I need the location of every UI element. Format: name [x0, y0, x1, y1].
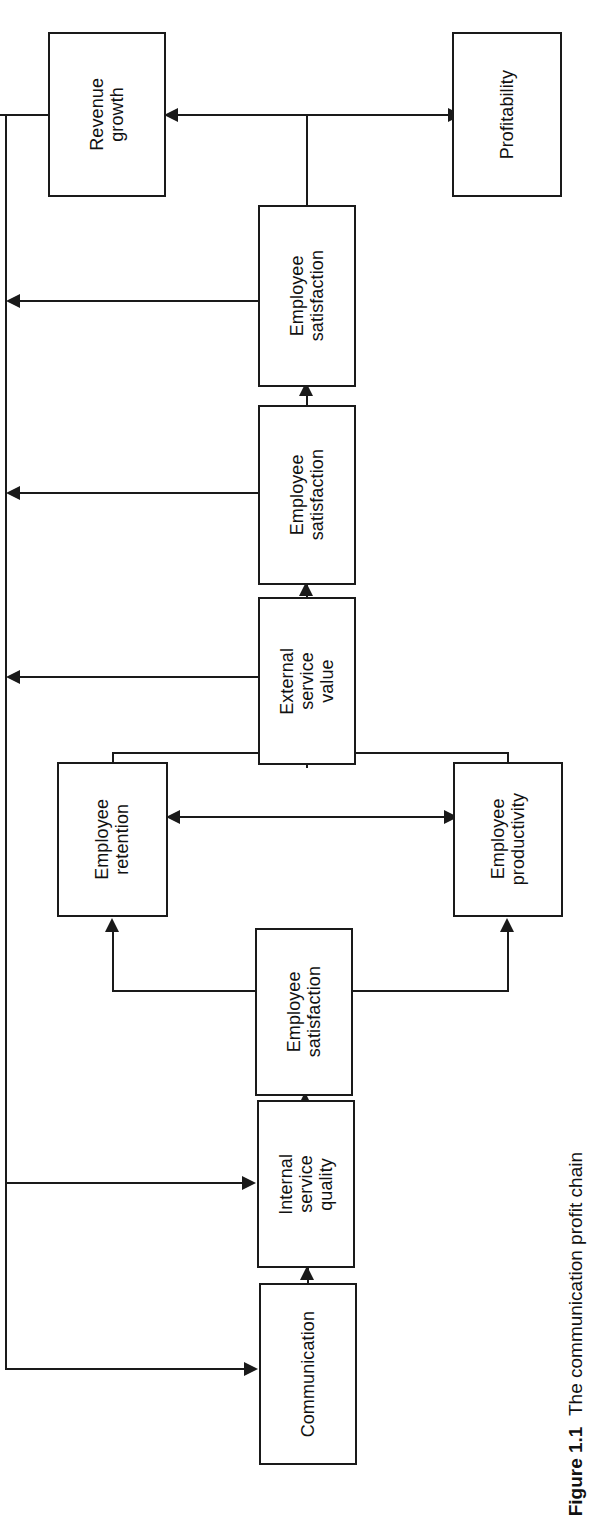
arrowhead-communication-to-internal-quality — [300, 1266, 314, 1280]
arrowhead-retention-side — [166, 810, 180, 824]
node-external-service-value[interactable]: External service value — [258, 597, 356, 765]
node-employee-satisfaction-low-label: Employee satisfaction — [284, 966, 324, 1057]
feedback-external-value-to-margin — [16, 676, 258, 678]
edge-retention-productivity-bidirectional — [176, 816, 448, 818]
node-employee-satisfaction-mid[interactable]: Employee satisfaction — [258, 405, 356, 585]
node-employee-retention[interactable]: Employee retention — [57, 762, 168, 917]
figure-caption: Figure 1.1 The communication profit chai… — [556, 0, 596, 1534]
node-internal-service-quality[interactable]: Internal service quality — [257, 1100, 355, 1268]
feedback-employee-sat-top-to-margin — [16, 300, 258, 302]
arrowhead-feedback-to-internal-quality — [242, 1176, 256, 1190]
feedback-outer-vertical-lower — [5, 1182, 7, 1370]
arrowhead-feedback-employee-sat-top — [6, 294, 20, 308]
node-revenue-growth[interactable]: Revenue growth — [48, 32, 166, 197]
feedback-employee-sat-mid-to-margin — [16, 492, 258, 494]
feedback-outer-to-internal-quality — [5, 1182, 245, 1184]
node-employee-satisfaction-mid-label: Employee satisfaction — [287, 449, 327, 540]
node-employee-satisfaction-low[interactable]: Employee satisfaction — [255, 928, 353, 1096]
arrowhead-employee-sat-low-to-productivity — [500, 918, 514, 932]
arrowhead-revenue-growth-side — [164, 108, 178, 122]
arrowhead-feedback-to-communication — [244, 1362, 258, 1376]
node-external-service-value-label: External service value — [277, 648, 337, 715]
edge-employee-sat-top-to-revenue-bus — [306, 114, 308, 206]
feedback-revenue-to-left-margin — [0, 114, 50, 116]
figure-caption-text: The communication profit chain — [565, 1152, 586, 1416]
arrowhead-feedback-external-value — [6, 670, 20, 684]
node-revenue-growth-label: Revenue growth — [87, 78, 127, 151]
figure-caption-label: Figure 1.1 — [565, 1426, 586, 1516]
node-employee-satisfaction-top[interactable]: Employee satisfaction — [258, 205, 356, 387]
feedback-outer-vertical — [5, 114, 7, 1184]
arrowhead-employee-sat-low-to-retention — [105, 918, 119, 932]
node-employee-productivity[interactable]: Employee productivity — [453, 762, 563, 917]
node-internal-service-quality-label: Internal service quality — [276, 1154, 336, 1215]
node-communication[interactable]: Communication — [259, 1283, 357, 1465]
node-profitability[interactable]: Profitability — [452, 32, 562, 197]
arrowhead-feedback-employee-sat-mid — [6, 486, 20, 500]
feedback-outer-to-communication — [5, 1368, 247, 1370]
communication-profit-chain-diagram: Revenue growth Profitability Employee sa… — [0, 0, 615, 1534]
node-communication-label: Communication — [298, 1311, 318, 1437]
node-employee-productivity-label: Employee productivity — [488, 793, 528, 885]
node-profitability-label: Profitability — [497, 70, 517, 159]
figure-page: Revenue growth Profitability Employee sa… — [0, 0, 615, 1534]
edge-revenue-profitability-bidirectional — [174, 114, 452, 116]
node-employee-satisfaction-top-label: Employee satisfaction — [287, 250, 327, 341]
node-employee-retention-label: Employee retention — [92, 799, 132, 880]
edge-employee-sat-low-to-productivity-leg — [507, 932, 509, 992]
edge-employee-sat-low-to-retention-leg — [112, 932, 114, 992]
